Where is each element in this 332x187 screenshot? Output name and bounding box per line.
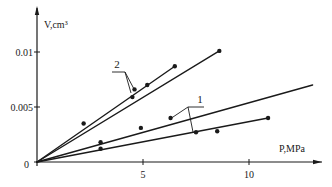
data-point-marker xyxy=(81,121,85,125)
data-point-marker xyxy=(266,116,270,120)
x-tick-label: 10 xyxy=(244,169,254,180)
callout-label-2: 2 xyxy=(114,58,120,70)
data-point-marker xyxy=(139,126,143,130)
data-point-marker xyxy=(194,130,198,134)
data-point-marker xyxy=(98,147,102,151)
y-tick-label: 0.01 xyxy=(16,47,34,58)
x-axis-label: P,MPa xyxy=(279,143,305,154)
x-axis-arrow-icon xyxy=(313,160,322,164)
chart: 5100.0050.01 21 V,cm³ P,MPa 0 xyxy=(0,0,332,187)
data-point-marker xyxy=(217,49,221,53)
y-tick-label: 0.005 xyxy=(11,102,34,113)
series-line-1b xyxy=(37,118,268,162)
data-point-marker xyxy=(98,140,102,144)
data-point-marker xyxy=(145,83,149,87)
data-point-marker xyxy=(130,95,134,99)
x-tick-label: 5 xyxy=(141,169,146,180)
axes: 5100.0050.01 xyxy=(11,6,323,180)
callout-label-1: 1 xyxy=(197,93,203,105)
series-line-1a xyxy=(37,85,313,162)
data-point-marker xyxy=(215,129,219,133)
origin-label: 0 xyxy=(24,159,29,170)
series-line-2b xyxy=(37,66,175,162)
y-axis-label: V,cm³ xyxy=(44,19,68,30)
callout-1-leader xyxy=(170,107,188,119)
data-point-marker xyxy=(173,64,177,68)
y-axis-arrow-icon xyxy=(35,6,39,15)
